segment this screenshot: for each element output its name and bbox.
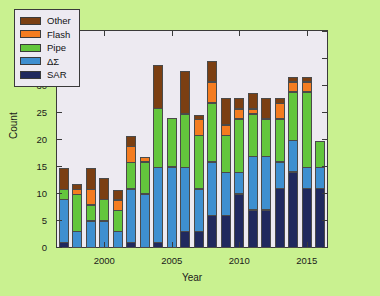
bar-segment-ds[interactable]	[194, 189, 204, 232]
bar-segment-other[interactable]	[248, 93, 258, 109]
bar-segment-sar[interactable]	[180, 231, 190, 247]
stacked-bar[interactable]	[275, 96, 285, 247]
stacked-bar[interactable]	[207, 58, 217, 247]
bar-segment-pipe[interactable]	[126, 162, 136, 189]
bar-segment-pipe[interactable]	[72, 194, 82, 232]
bar-segment-flash[interactable]	[234, 109, 244, 120]
bar-segment-other[interactable]	[59, 168, 69, 190]
stacked-bar[interactable]	[234, 96, 244, 247]
bar-segment-ds[interactable]	[248, 156, 258, 210]
bar-segment-flash[interactable]	[113, 200, 123, 211]
legend-item-flash[interactable]: Flash	[20, 28, 71, 42]
legend-item-pipe[interactable]: Pipe	[20, 41, 71, 55]
stacked-bar[interactable]	[288, 74, 298, 247]
stacked-bar[interactable]	[59, 166, 69, 247]
bar-segment-sar[interactable]	[288, 172, 298, 248]
bar-segment-other[interactable]	[180, 71, 190, 114]
bar-segment-other[interactable]	[86, 168, 96, 190]
bar-segment-ds[interactable]	[113, 231, 123, 247]
bar-segment-ds[interactable]	[140, 194, 150, 248]
bar-segment-pipe[interactable]	[86, 205, 96, 221]
bar-segment-ds[interactable]	[180, 167, 190, 232]
bar-segment-pipe[interactable]	[113, 210, 123, 232]
bar-segment-ds[interactable]	[234, 172, 244, 194]
stacked-bar[interactable]	[153, 63, 163, 247]
stacked-bar[interactable]	[180, 69, 190, 247]
stacked-bar[interactable]	[248, 90, 258, 247]
bar-segment-ds[interactable]	[302, 167, 312, 189]
stacked-bar[interactable]	[194, 112, 204, 247]
bar-segment-flash[interactable]	[194, 119, 204, 135]
stacked-bar[interactable]	[167, 117, 177, 247]
bar-segment-other[interactable]	[221, 98, 231, 125]
bar-segment-other[interactable]	[113, 190, 123, 201]
bar-segment-ds[interactable]	[315, 167, 325, 189]
bar-segment-other[interactable]	[126, 136, 136, 147]
bar-segment-pipe[interactable]	[234, 119, 244, 173]
bar-segment-flash[interactable]	[288, 82, 298, 93]
stacked-bar[interactable]	[126, 134, 136, 247]
bar-segment-ds[interactable]	[207, 162, 217, 216]
bar-segment-ds[interactable]	[261, 156, 271, 210]
bar-segment-other[interactable]	[207, 61, 217, 83]
bar-segment-pipe[interactable]	[275, 119, 285, 162]
bar-segment-flash[interactable]	[221, 125, 231, 136]
bar-segment-pipe[interactable]	[99, 199, 109, 221]
bar-segment-ds[interactable]	[221, 172, 231, 215]
bar-segment-pipe[interactable]	[315, 141, 325, 168]
legend-item-other[interactable]: Other	[20, 14, 71, 28]
bar-segment-flash[interactable]	[126, 146, 136, 162]
bar-segment-sar[interactable]	[315, 188, 325, 247]
bar-segment-sar[interactable]	[261, 210, 271, 248]
bar-segment-sar[interactable]	[275, 188, 285, 247]
bar-segment-flash[interactable]	[86, 189, 96, 205]
stacked-bar[interactable]	[140, 155, 150, 247]
stacked-bar[interactable]	[86, 166, 96, 247]
bar-segment-sar[interactable]	[153, 242, 163, 247]
bar-segment-sar[interactable]	[207, 215, 217, 247]
bar-segment-flash[interactable]	[275, 103, 285, 119]
x-axis-title: Year	[56, 272, 328, 283]
bar-segment-pipe[interactable]	[59, 189, 69, 200]
bar-segment-pipe[interactable]	[167, 118, 177, 167]
bar-segment-sar[interactable]	[194, 231, 204, 247]
legend-item-δς[interactable]: ΔΣ	[20, 55, 71, 69]
bar-segment-ds[interactable]	[288, 140, 298, 172]
legend-item-sar[interactable]: SAR	[20, 68, 71, 82]
stacked-bar[interactable]	[302, 74, 312, 247]
bar-segment-flash[interactable]	[302, 82, 312, 93]
bar-segment-sar[interactable]	[302, 188, 312, 247]
bar-segment-pipe[interactable]	[140, 162, 150, 194]
bar-segment-pipe[interactable]	[288, 92, 298, 141]
bar-segment-pipe[interactable]	[302, 92, 312, 168]
bar-segment-sar[interactable]	[221, 215, 231, 247]
bar-segment-other[interactable]	[153, 65, 163, 108]
bar-segment-ds[interactable]	[153, 167, 163, 243]
stacked-bar[interactable]	[99, 177, 109, 247]
bar-segment-pipe[interactable]	[207, 103, 217, 162]
bar-segment-ds[interactable]	[59, 199, 69, 242]
bar-segment-pipe[interactable]	[221, 135, 231, 173]
stacked-bar[interactable]	[221, 96, 231, 247]
bar-segment-sar[interactable]	[126, 242, 136, 247]
bar-segment-ds[interactable]	[126, 189, 136, 243]
bar-segment-pipe[interactable]	[153, 108, 163, 167]
bar-segment-other[interactable]	[234, 98, 244, 109]
bar-segment-sar[interactable]	[248, 210, 258, 248]
stacked-bar[interactable]	[113, 188, 123, 247]
bar-segment-flash[interactable]	[207, 82, 217, 104]
stacked-bar[interactable]	[261, 96, 271, 247]
bar-segment-pipe[interactable]	[261, 119, 271, 157]
bar-segment-other[interactable]	[261, 98, 271, 120]
stacked-bar[interactable]	[72, 182, 82, 247]
bar-segment-ds[interactable]	[86, 221, 96, 248]
bar-segment-ds[interactable]	[72, 231, 82, 247]
x-tick-mark-top	[172, 31, 173, 36]
bar-segment-sar[interactable]	[234, 194, 244, 248]
bar-segment-pipe[interactable]	[180, 114, 190, 168]
bar-segment-ds[interactable]	[275, 162, 285, 189]
bar-segment-ds[interactable]	[167, 167, 177, 248]
bar-segment-other[interactable]	[99, 178, 109, 200]
bar-segment-pipe[interactable]	[194, 135, 204, 189]
bar-segment-pipe[interactable]	[248, 114, 258, 157]
